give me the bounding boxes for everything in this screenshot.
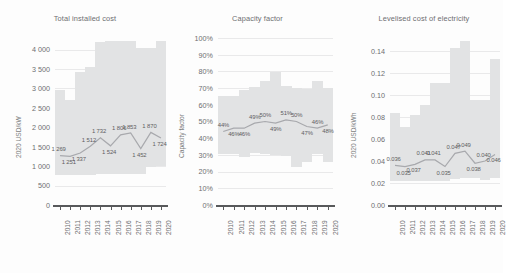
x-tick-label: 2017 [469, 220, 476, 235]
x-tick-mark [80, 207, 81, 210]
x-tick-label: 2016 [290, 220, 297, 235]
data-label: 1 724 [152, 141, 166, 147]
x-tick-label: 2012 [419, 220, 426, 235]
data-label: 49% [270, 126, 282, 132]
x-tick-mark [255, 207, 256, 210]
x-tick-mark [121, 207, 122, 210]
x-tick-label: 2020 [499, 220, 506, 235]
x-tick-label: 2015 [449, 220, 456, 235]
data-label: 0.035 [437, 170, 451, 176]
x-tick-label: 2019 [322, 220, 329, 235]
x-tick-label: 2012 [85, 220, 92, 235]
x-tick-label: 2013 [429, 220, 436, 235]
x-tick-label: 2018 [145, 220, 152, 235]
x-tick-mark [161, 207, 162, 210]
x-tick-mark [435, 207, 436, 210]
data-label: 0.041 [427, 150, 441, 156]
x-tick-label: 2017 [301, 220, 308, 235]
x-tick-mark [485, 207, 486, 210]
x-tick-mark [317, 207, 318, 210]
x-tick-label: 2011 [74, 220, 81, 234]
x-tick-label: 2016 [459, 220, 466, 235]
x-tick-mark [90, 207, 91, 210]
data-label: 48% [322, 128, 334, 134]
x-tick-label: 2013 [259, 220, 266, 235]
data-label: 0.036 [387, 156, 401, 162]
x-tick-mark [70, 207, 71, 210]
chart-panel-2: Capacity factor0%10%20%30%40%50%60%70%80… [170, 0, 345, 273]
x-tick-label: 2017 [135, 220, 142, 235]
weighted-average-line [170, 0, 345, 273]
x-tick-mark [445, 207, 446, 210]
x-tick-mark [405, 207, 406, 210]
data-label: 0.037 [407, 167, 421, 173]
x-tick-label: 2014 [269, 220, 276, 235]
x-tick-mark [234, 207, 235, 210]
data-label: 1 337 [72, 156, 86, 162]
data-label: 46% [312, 119, 324, 125]
x-tick-mark [244, 207, 245, 210]
x-tick-label: 2013 [95, 220, 102, 235]
data-label: 47% [301, 130, 313, 136]
x-tick-mark [465, 207, 466, 210]
x-tick-label: 2014 [105, 220, 112, 235]
x-tick-mark [286, 207, 287, 210]
data-label: 1 732 [92, 128, 106, 134]
x-tick-mark [395, 207, 396, 210]
data-label: 1 269 [52, 146, 66, 152]
x-tick-mark [475, 207, 476, 210]
data-label: 50% [260, 112, 272, 118]
x-tick-label: 2012 [248, 220, 255, 235]
x-tick-label: 2011 [409, 220, 416, 234]
x-tick-label: 2016 [125, 220, 132, 235]
x-tick-label: 2010 [64, 220, 71, 235]
data-label: 46% [239, 131, 251, 137]
x-tick-label: 2019 [489, 220, 496, 235]
data-label: 0.046 [487, 157, 501, 163]
x-tick-mark [328, 207, 329, 210]
data-label: 1 853 [122, 124, 136, 130]
x-tick-label: 2019 [155, 220, 162, 235]
x-tick-label: 2020 [332, 220, 339, 235]
data-label: 0.038 [467, 166, 481, 172]
x-tick-mark [296, 207, 297, 210]
chart-panel-1: Total installed cost05001 0001 5002 0002… [0, 0, 170, 273]
chart-panel-3: Levelised cost of electricity0.000.020.0… [345, 0, 503, 273]
x-tick-label: 2011 [238, 220, 245, 234]
data-label: 1 870 [142, 123, 156, 129]
x-tick-mark [151, 207, 152, 210]
data-label: 1 512 [82, 137, 96, 143]
x-tick-label: 2014 [439, 220, 446, 235]
x-tick-label: 2018 [479, 220, 486, 235]
x-tick-mark [131, 207, 132, 210]
x-tick-mark [425, 207, 426, 210]
x-tick-mark [100, 207, 101, 210]
x-tick-label: 2010 [399, 220, 406, 235]
x-tick-mark [276, 207, 277, 210]
data-label: 1 452 [132, 152, 146, 158]
x-tick-label: 2015 [280, 220, 287, 235]
x-tick-mark [415, 207, 416, 210]
x-tick-mark [455, 207, 456, 210]
x-tick-mark [60, 207, 61, 210]
x-tick-mark [495, 207, 496, 210]
data-label: 50% [291, 112, 303, 118]
x-tick-label: 2015 [115, 220, 122, 235]
x-tick-mark [223, 207, 224, 210]
data-label: 44% [218, 122, 230, 128]
x-tick-label: 2018 [311, 220, 318, 235]
x-tick-mark [265, 207, 266, 210]
x-tick-mark [141, 207, 142, 210]
x-tick-mark [307, 207, 308, 210]
x-tick-label: 2010 [228, 220, 235, 235]
data-label: 0.049 [457, 142, 471, 148]
x-tick-mark [111, 207, 112, 210]
data-label: 1 524 [102, 149, 116, 155]
